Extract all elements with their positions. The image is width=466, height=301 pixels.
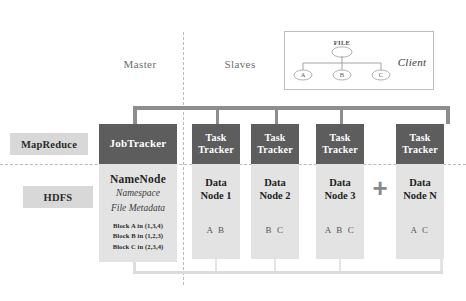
- namenode-title: NameNode: [110, 173, 166, 185]
- tasktracker-label-line2: Tracker: [322, 144, 358, 156]
- tasktracker-label-line2: Tracker: [402, 144, 438, 156]
- tasktracker-box-3[interactable]: Task Tracker: [316, 124, 364, 164]
- master-slaves-divider: [183, 32, 184, 285]
- client-block-c-label: C: [371, 71, 391, 78]
- datanode-title-line2: Node 1: [200, 189, 231, 202]
- datanode-title-line2: Node N: [403, 189, 437, 202]
- datanode-title-line1: Data: [324, 176, 355, 189]
- tracker-bus-drop-task-2: [275, 110, 278, 124]
- tasktracker-label-line1: Task: [409, 132, 430, 144]
- hadoop-architecture-diagram: FILE A B C Client Master Slaves: [0, 0, 466, 301]
- datanode-box-3[interactable]: Data Node 3 A B C: [316, 164, 364, 259]
- layer-tag-mapreduce: MapReduce: [10, 133, 88, 155]
- datanode-blocks-1: A B: [206, 225, 225, 235]
- datanode-box-2[interactable]: Data Node 2 B C: [251, 164, 299, 259]
- namenode-block-c: Block C in (2,3,4): [113, 242, 164, 253]
- tasktracker-label-line2: Tracker: [198, 144, 234, 156]
- datanode-title-line1: Data: [200, 176, 231, 189]
- plus-icon: +: [368, 176, 392, 200]
- client-block-b-label: B: [332, 71, 352, 78]
- tracker-bus-drop-jobtracker: [133, 106, 137, 124]
- datanode-blocks-n: A C: [410, 225, 429, 235]
- tracker-bus-drop-task-1: [216, 110, 219, 124]
- namenode-box[interactable]: NameNode Namespace File Metadata Block A…: [99, 164, 177, 262]
- datanode-title-line2: Node 2: [259, 189, 290, 202]
- tracker-bus-drop-task-n: [446, 106, 450, 124]
- client-block-a-label: A: [293, 71, 313, 78]
- layer-tag-hdfs: HDFS: [23, 186, 93, 208]
- tasktracker-box-1[interactable]: Task Tracker: [192, 124, 240, 164]
- datanode-title-line1: Data: [259, 176, 290, 189]
- tasktracker-label-line2: Tracker: [257, 144, 293, 156]
- jobtracker-box[interactable]: JobTracker: [99, 124, 177, 164]
- tracker-bus-horizontal: [133, 106, 450, 110]
- client-panel: FILE A B C Client: [284, 31, 434, 90]
- tracker-bus-drop-task-3: [340, 110, 343, 124]
- namenode-subtitle-namespace: Namespace: [116, 186, 160, 200]
- tasktracker-box-n[interactable]: Task Tracker: [396, 124, 444, 164]
- client-label: Client: [391, 56, 433, 68]
- jobtracker-label: JobTracker: [110, 137, 167, 150]
- datanode-box-n[interactable]: Data Node N A C: [396, 164, 444, 259]
- tasktracker-label-line1: Task: [329, 132, 350, 144]
- tasktracker-box-2[interactable]: Task Tracker: [251, 124, 299, 164]
- plus-symbol: +: [372, 175, 387, 201]
- datanode-bus-horizontal: [133, 271, 443, 274]
- datanode-title-line1: Data: [403, 176, 437, 189]
- datanode-blocks-2: B C: [265, 225, 284, 235]
- datanode-title-line2: Node 3: [324, 189, 355, 202]
- datanode-box-1[interactable]: Data Node 1 A B: [192, 164, 240, 259]
- namenode-block-a: Block A in (1,3,4): [113, 221, 163, 232]
- tasktracker-label-line1: Task: [264, 132, 285, 144]
- client-file-label: FILE: [325, 39, 359, 46]
- column-heading-master: Master: [95, 58, 185, 70]
- namenode-subtitle-file-metadata: File Metadata: [111, 201, 165, 215]
- layer-tag-hdfs-label: HDFS: [44, 192, 73, 203]
- datanode-blocks-3: A B C: [325, 225, 356, 235]
- column-heading-slaves: Slaves: [195, 58, 285, 70]
- namenode-block-b: Block B in (1,2,3): [113, 231, 163, 242]
- layer-tag-mapreduce-label: MapReduce: [21, 139, 77, 150]
- tasktracker-label-line1: Task: [205, 132, 226, 144]
- datanode-bus-riser-namenode: [133, 262, 136, 274]
